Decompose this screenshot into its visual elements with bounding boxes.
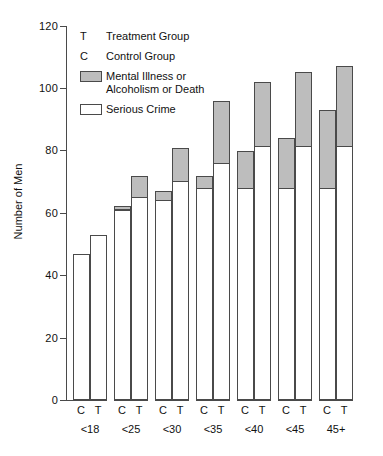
x-sub-label-c-lt25: C [114,405,130,416]
x-sub-label-t-lt35: T [213,405,229,416]
bar-c-lt30-illness [155,191,172,201]
legend-label-crime: Serious Crime [106,103,176,116]
x-sub-label-c-lt30: C [155,405,171,416]
bar-c-lt35 [196,176,213,400]
bar-c-lt45-illness [278,138,295,189]
bar-chart: 120 100 80 60 40 20 0 Number of Men [0,0,383,456]
bar-t-lt45-illness [295,72,312,147]
legend-label-illness: Mental Illness or Alcoholism or Death [106,70,204,96]
x-sub-label-c-lt45: C [278,405,294,416]
bar-c-45plus-illness [319,110,336,189]
legend-swatch-crime-icon [80,104,102,115]
bar-c-lt25-illness [114,206,131,210]
x-sub-label-t-lt18: T [90,405,106,416]
x-sub-label-t-lt45: T [295,405,311,416]
legend-row-crime: Serious Crime [80,103,270,116]
x-sub-label-t-45plus: T [336,405,352,416]
x-axis-segment-lt35 [196,400,230,401]
x-axis-segment-45plus [319,400,353,401]
bar-t-lt30-illness [172,148,189,182]
bar-t-lt25-illness [131,176,148,198]
x-sub-label-c-lt18: C [73,405,89,416]
x-sub-label-t-lt30: T [172,405,188,416]
bar-t-lt25 [131,176,148,400]
bar-t-45plus-illness [336,66,353,147]
chart-legend: T Treatment Group C Control Group Mental… [80,30,270,123]
x-group-label-45plus: 45+ [311,424,361,435]
x-sub-label-c-lt35: C [196,405,212,416]
x-axis-segment-lt25 [114,400,148,401]
x-sub-label-c-lt40: C [237,405,253,416]
x-sub-label-t-lt40: T [254,405,270,416]
legend-row-control: C Control Group [80,50,270,63]
x-axis-segment-lt45 [278,400,312,401]
x-sub-label-c-45plus: C [319,405,335,416]
bar-c-lt18 [73,254,90,400]
x-axis-segment-lt40 [237,400,271,401]
x-sub-label-t-lt25: T [131,405,147,416]
bar-t-lt18 [90,235,107,400]
bar-c-lt25 [114,210,131,400]
x-axis-segment-lt18 [66,400,107,401]
bar-c-lt30 [155,191,172,400]
bar-c-lt35-illness [196,176,213,189]
x-axis-segment-lt30 [155,400,189,401]
bar-c-lt40-illness [237,151,254,189]
legend-key-t: T [80,30,106,43]
legend-key-c: C [80,50,106,63]
bar-t-lt30 [172,148,189,400]
legend-row-illness: Mental Illness or Alcoholism or Death [80,70,270,96]
legend-row-treatment: T Treatment Group [80,30,270,43]
legend-label-control: Control Group [106,50,175,63]
legend-swatch-illness-icon [80,71,102,82]
legend-label-treatment: Treatment Group [106,30,189,43]
